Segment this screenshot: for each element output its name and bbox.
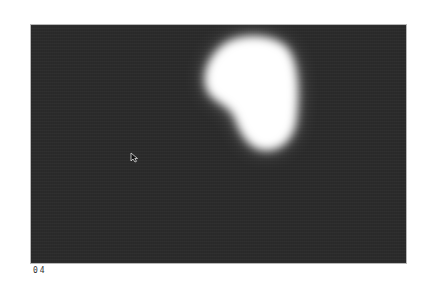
- image-stage: 04: [0, 0, 427, 293]
- arrow-cursor-icon: [130, 152, 142, 164]
- image-frame: [30, 24, 407, 264]
- frame-number-label: 04: [33, 266, 47, 275]
- light-blob: [31, 25, 407, 264]
